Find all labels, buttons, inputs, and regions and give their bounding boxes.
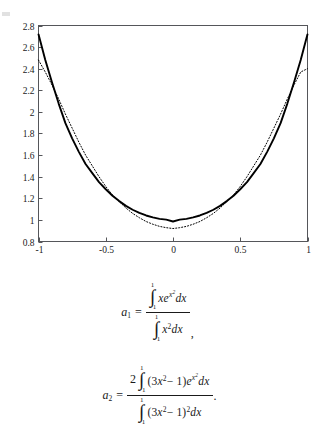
equation-a2-numerator: 2 1 ∫ −1 (3x2− 1)ex2dx	[127, 365, 213, 395]
integral-sign-a2-num: 1 ∫ −1	[138, 365, 145, 394]
integral-sign-a2-den: 1 ∫ −1	[138, 397, 145, 426]
equation-a1-equals: =	[135, 305, 142, 320]
y-tick-label: 1.4	[23, 173, 35, 183]
integrand-a2-den: (3x2− 1)2dx	[147, 405, 201, 418]
y-tick-label: 1.6	[23, 151, 35, 161]
equation-a1-lhs: a1	[121, 305, 131, 320]
y-tick-label: 2.4	[23, 65, 35, 75]
x-tick-labels: -1-0.500.51	[36, 245, 312, 255]
integral-sign-a1-den: 1 ∫ −1	[153, 314, 160, 343]
y-tick-label: 2	[30, 108, 35, 118]
y-tick-label: 2.2	[23, 86, 35, 96]
y-tick-label: 1.8	[23, 129, 35, 139]
equation-a2-punctuation: .	[214, 389, 217, 404]
equation-a1: a1 = 1 ∫ −1 xex2dx 1 ∫ −1 x2dx ,	[0, 282, 323, 343]
plot-figure: 0.811.21.41.61.822.22.42.62.8 -1-0.500.5…	[0, 0, 323, 270]
x-tick-label: 1	[306, 245, 311, 255]
y-tick-label: 0.8	[23, 238, 35, 248]
equation-a1-punctuation: ,	[191, 326, 194, 341]
equations-area: a1 = 1 ∫ −1 xex2dx 1 ∫ −1 x2dx ,	[0, 270, 323, 436]
equation-a1-fraction: 1 ∫ −1 xex2dx 1 ∫ −1 x2dx	[146, 282, 190, 343]
equation-a2-lhs: a2	[102, 388, 112, 403]
plot-canvas: 0.811.21.41.61.822.22.42.62.8 -1-0.500.5…	[0, 0, 323, 270]
equation-a2-lead-coefficient: 2	[130, 372, 136, 387]
x-tick-label: 0	[171, 245, 176, 255]
y-tick-labels: 0.811.21.41.61.822.22.42.62.8	[23, 22, 35, 248]
equation-a2: a2 = 2 1 ∫ −1 (3x2− 1)ex2dx 1 ∫ −1 (3x2−…	[0, 365, 323, 426]
x-tick-label: 0.5	[235, 245, 247, 255]
equation-a2-equals: =	[116, 388, 123, 403]
y-tick-label: 1.2	[23, 194, 35, 204]
equation-a1-numerator: 1 ∫ −1 xex2dx	[146, 282, 190, 312]
x-tick-label: -1	[36, 245, 44, 255]
equation-a2-denominator: 1 ∫ −1 (3x2− 1)2dx	[135, 396, 205, 426]
x-tick-label: -0.5	[99, 245, 114, 255]
integral-sign-a1-num: 1 ∫ −1	[149, 282, 156, 311]
y-tick-label: 2.6	[23, 43, 35, 53]
y-tick-label: 2.8	[23, 22, 35, 32]
equation-a1-denominator: 1 ∫ −1 x2dx	[150, 313, 186, 343]
integrand-a1-num: xex2dx	[158, 290, 186, 304]
y-tick-label: 1	[30, 216, 35, 226]
integrand-a2-num: (3x2− 1)ex2dx	[147, 373, 209, 387]
axes-frame	[39, 26, 308, 242]
integrand-a1-den: x2dx	[162, 322, 183, 335]
equation-a2-fraction: 2 1 ∫ −1 (3x2− 1)ex2dx 1 ∫ −1 (3x2− 1)2d…	[127, 365, 213, 426]
